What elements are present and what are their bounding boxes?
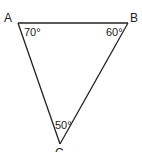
vertex-label-c: C <box>55 146 64 152</box>
edge-ac <box>18 23 60 144</box>
triangle-diagram: A B C 70° 60° 50° <box>0 0 142 152</box>
triangle-svg: A B C 70° 60° 50° <box>0 0 142 152</box>
vertex-label-a: A <box>4 11 12 25</box>
vertex-label-b: B <box>130 11 138 25</box>
angle-label-a: 70° <box>24 26 41 38</box>
angle-label-c: 50° <box>55 119 72 131</box>
angle-label-b: 60° <box>106 26 123 38</box>
